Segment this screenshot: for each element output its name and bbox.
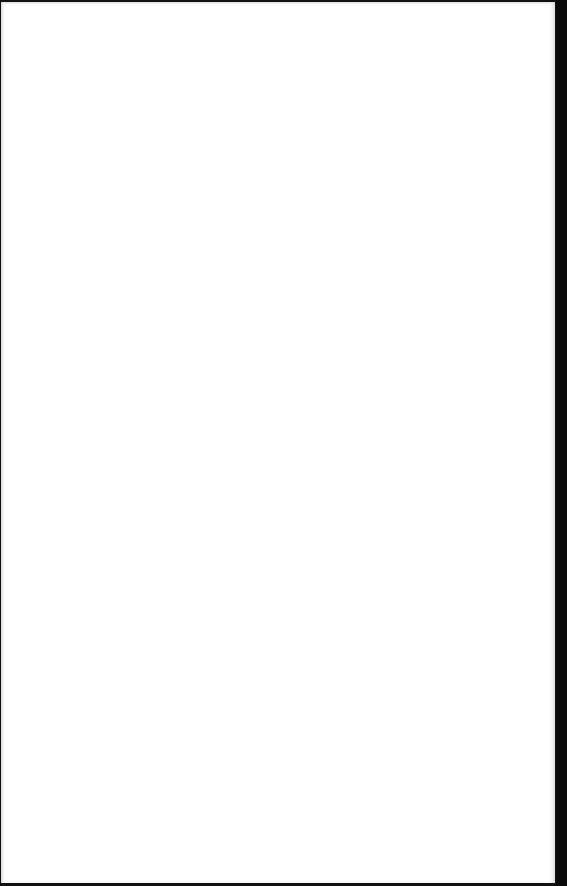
page-content	[1, 2, 555, 883]
blank-page	[1, 2, 555, 883]
scanned-document	[0, 0, 567, 886]
scan-border-right	[556, 0, 567, 886]
